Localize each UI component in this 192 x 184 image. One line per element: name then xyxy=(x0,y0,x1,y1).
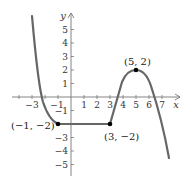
y-tick-label: 4 xyxy=(62,38,68,48)
x-tick-label: 3 xyxy=(107,100,113,110)
point-b-marker xyxy=(108,122,113,127)
y-axis xyxy=(68,13,74,176)
point-c-marker xyxy=(134,68,139,73)
y-tick-label: 1 xyxy=(62,79,68,89)
x-tick-label: 6 xyxy=(146,100,152,110)
x-tick-label: 1 xyxy=(81,100,87,110)
point-b-label: (3, −2) xyxy=(104,131,139,142)
x-tick-label: −3 xyxy=(25,100,39,110)
point-a-marker xyxy=(56,122,61,127)
y-tick-label: −3 xyxy=(55,133,69,143)
y-tick-label: 3 xyxy=(62,52,68,62)
x-axis-label: x xyxy=(173,99,179,110)
y-tick-label: −4 xyxy=(55,146,69,156)
y-tick-label: −1 xyxy=(55,106,68,116)
function-graph: −3 −1 1 2 3 4 5 6 7 x y 5 4 3 2 1 −1 −3 … xyxy=(0,0,192,184)
point-c-label: (5, 2) xyxy=(124,56,151,67)
x-tick-label: 4 xyxy=(120,100,126,110)
y-axis-label: y xyxy=(59,10,66,21)
y-tick-label: 5 xyxy=(62,25,68,35)
y-tick-label: 2 xyxy=(62,65,68,75)
y-tick-labels: y 5 4 3 2 1 −1 −3 −4 −5 xyxy=(55,10,69,170)
x-tick-label: 5 xyxy=(133,100,139,110)
x-tick-label: 2 xyxy=(94,100,100,110)
function-curve xyxy=(32,16,169,158)
x-tick-label: 7 xyxy=(159,100,165,110)
y-tick-label: −5 xyxy=(55,160,69,170)
point-a-label: (−1, −2) xyxy=(11,120,55,131)
